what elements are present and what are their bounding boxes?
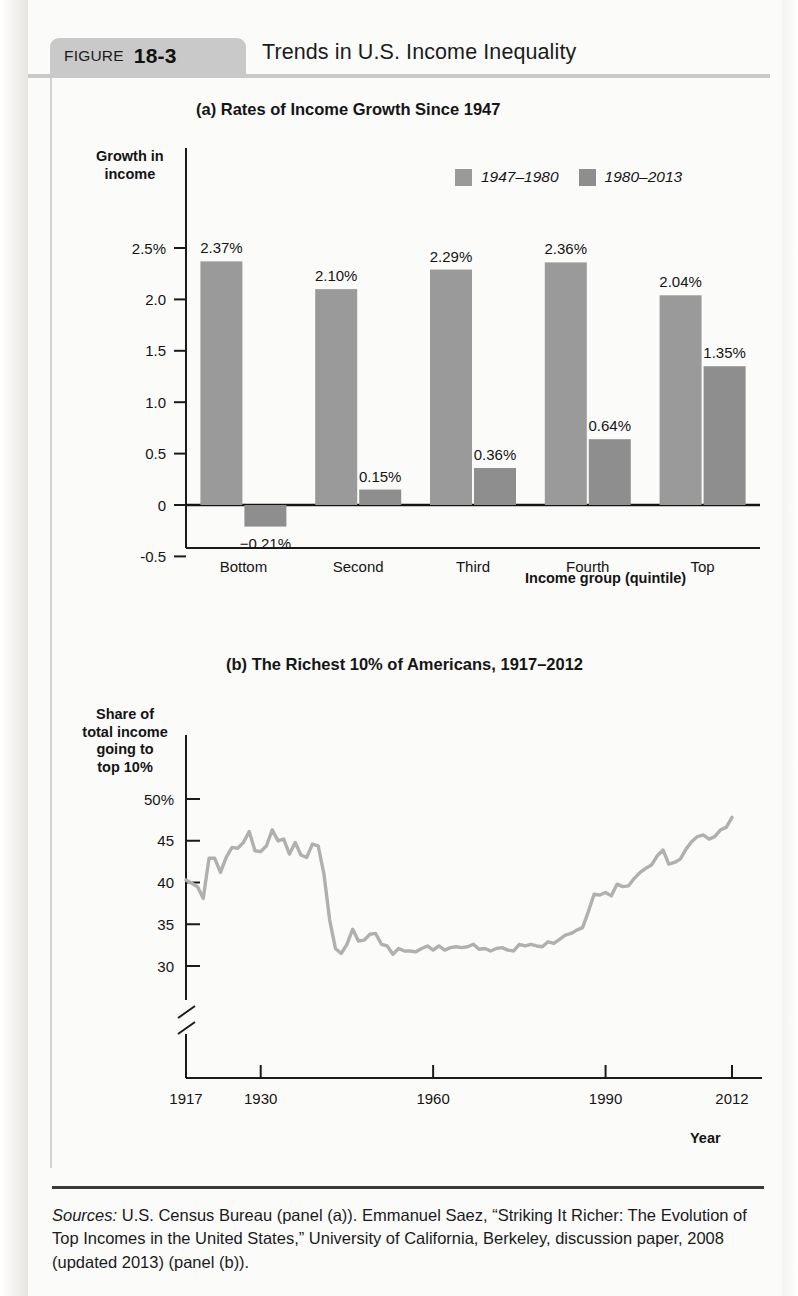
panel-b-axis-break-mark-lower (178, 1022, 195, 1034)
panel-b-x-tick-label: 1990 (589, 1090, 622, 1107)
panel-b-y-tick-label: 35 (157, 916, 174, 933)
panel-b-y-axis-title-line4: top 10% (97, 759, 153, 775)
panel-b-y-axis-title-line2: total income (82, 724, 167, 740)
panel-b-data-line (186, 817, 732, 954)
panel-b-line-chart: (b) The Richest 10% of Americans, 1917–2… (0, 0, 798, 1180)
panel-b-x-tick-label: 2012 (715, 1090, 748, 1107)
source-divider (52, 1186, 764, 1189)
panel-b-y-axis-title-line1: Share of (96, 706, 154, 722)
panel-b-x-tick-label: 1917 (169, 1090, 202, 1107)
panel-b-y-axis-title: Share of total income going to top 10% (60, 706, 190, 777)
panel-b-title: (b) The Richest 10% of Americans, 1917–2… (226, 655, 583, 674)
panel-b-x-tick-label: 1930 (244, 1090, 277, 1107)
panel-b-y-tick-label: 30 (157, 958, 174, 975)
source-lead-label: Sources: (52, 1206, 117, 1224)
figure-container: FIGURE 18-3 Trends in U.S. Income Inequa… (0, 0, 798, 1296)
source-body-text: U.S. Census Bureau (panel (a)). Emmanuel… (52, 1206, 747, 1271)
panel-b-y-tick-label: 40 (157, 874, 174, 891)
panel-b-x-tick-label: 1960 (416, 1090, 449, 1107)
panel-b-x-axis-title: Year (690, 1130, 721, 1148)
panel-b-axis-break-mark-upper (178, 1006, 195, 1018)
panel-b-plot: 50%4540353019171930196019902012 (0, 0, 798, 1180)
panel-b-y-tick-label: 45 (157, 832, 174, 849)
panel-b-y-tick-label: 50% (144, 791, 174, 808)
panel-b-y-axis-title-line3: going to (96, 741, 153, 757)
source-note: Sources: U.S. Census Bureau (panel (a)).… (52, 1204, 768, 1274)
